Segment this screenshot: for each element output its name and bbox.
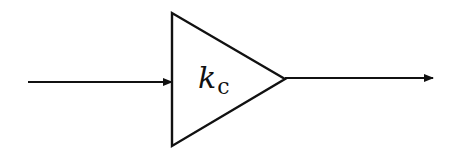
gain-label: kc xyxy=(198,60,229,95)
gain-subscript: c xyxy=(217,74,229,99)
diagram-canvas: kc xyxy=(0,0,451,154)
gain-symbol: k xyxy=(198,60,216,95)
